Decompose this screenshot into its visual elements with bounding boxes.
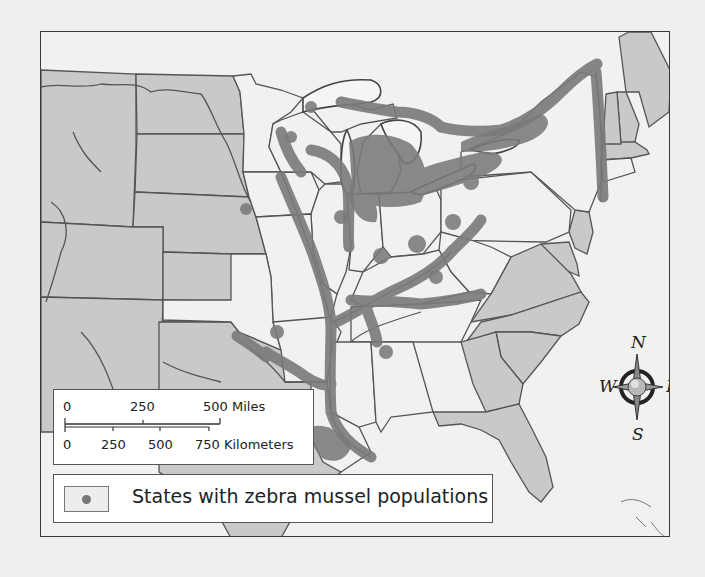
scale-km-tick-500: 500: [148, 437, 173, 452]
scale-bar-lines: [54, 390, 315, 466]
compass-star-icon: [593, 332, 670, 447]
mussel-dot-icon: [82, 495, 91, 504]
map-frame: 0 250 500 Miles 0 250 500 750 Kilometers…: [40, 31, 670, 537]
legend-swatch-mussel-states: [64, 486, 109, 512]
scale-km-end: 750 Kilometers: [195, 437, 294, 452]
legend-label: States with zebra mussel populations: [132, 485, 488, 507]
compass-rose: N W E S: [593, 332, 670, 447]
scale-km-tick-250: 250: [101, 437, 126, 452]
scale-bar: 0 250 500 Miles 0 250 500 750 Kilometers: [53, 389, 314, 465]
legend: States with zebra mussel populations: [53, 474, 493, 523]
scale-km-tick-0: 0: [63, 437, 71, 452]
